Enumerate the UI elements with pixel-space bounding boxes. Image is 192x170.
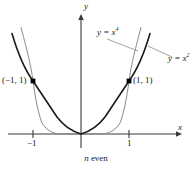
x-axis-label: x: [178, 123, 182, 132]
marker-point-1-1: [127, 79, 132, 84]
point-label-neg1-1: (−1, 1): [2, 76, 27, 85]
y-axis-label: y: [84, 2, 88, 11]
x-tick-label-neg1: −1: [27, 139, 37, 148]
figure-container: y x −1 1 (−1, 1) (1, 1) y = x4 y = x2 n …: [0, 0, 192, 170]
curve-label-quartic-exponent: 4: [116, 26, 119, 32]
x-tick-label-pos1: 1: [127, 139, 132, 148]
curve-label-quartic: y = x4: [97, 26, 119, 37]
figure-caption: n even: [0, 153, 192, 163]
y-axis-arrowhead: [78, 14, 84, 20]
leader-line-quartic: [107, 39, 138, 51]
curve-label-quadratic-exponent: 2: [187, 52, 190, 58]
caption-text: even: [89, 153, 108, 163]
curve-label-quartic-text: y = x: [97, 27, 116, 37]
curve-label-quadratic: y = x2: [168, 52, 190, 63]
curve-label-quadratic-text: y = x: [168, 53, 187, 63]
marker-point-neg1-1: [31, 79, 36, 84]
point-label-1-1: (1, 1): [133, 76, 153, 85]
x-axis-arrowhead: [176, 131, 182, 137]
